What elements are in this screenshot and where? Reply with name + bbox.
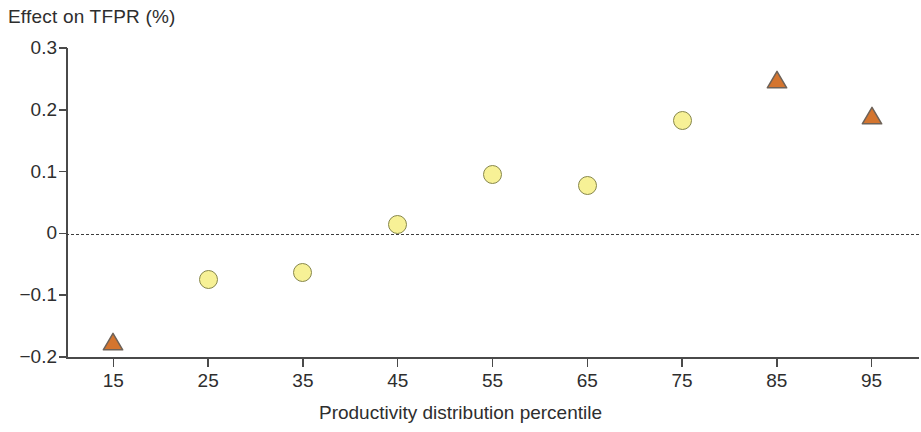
y-axis-tick-mark (59, 109, 67, 111)
y-axis-line (66, 48, 68, 359)
data-point-circle (483, 165, 502, 184)
data-point-circle (199, 270, 218, 289)
y-axis-tick-label: 0.2 (1, 100, 57, 119)
x-axis-tick-label: 95 (842, 370, 902, 391)
x-axis-tick-label: 35 (273, 370, 333, 391)
y-axis-tick-label: 0.1 (1, 162, 57, 181)
x-axis-tick-label: 55 (463, 370, 523, 391)
x-axis-tick-mark (302, 358, 304, 367)
x-axis-tick-label: 85 (747, 370, 807, 391)
data-point-circle (293, 263, 312, 282)
x-axis-tick-mark (681, 358, 683, 367)
y-axis-tick-mark (59, 294, 67, 296)
y-axis-tick: 0 (0, 223, 57, 242)
plot-area: 0.30.20.10−0.1−0.2 152535455565758595 (0, 0, 921, 432)
zero-reference-line (66, 234, 919, 235)
data-point-triangle (102, 332, 124, 351)
data-point-triangle (766, 70, 788, 89)
y-axis-tick: 0.1 (0, 162, 57, 181)
y-axis-tick-label: −0.1 (1, 285, 57, 304)
x-axis-tick-label: 75 (652, 370, 712, 391)
y-axis-tick-mark (59, 171, 67, 173)
x-axis-tick-mark (587, 358, 589, 367)
x-axis-tick-mark (397, 358, 399, 367)
data-point-circle (578, 176, 597, 195)
x-axis-tick-mark (207, 358, 209, 367)
y-axis-tick-mark (59, 356, 67, 358)
scatter-chart-figure: Effect on TFPR (%) 0.30.20.10−0.1−0.2 15… (0, 0, 921, 432)
x-axis-label: Productivity distribution percentile (0, 402, 921, 424)
x-axis-tick-label: 45 (368, 370, 428, 391)
x-axis-tick-label: 25 (178, 370, 238, 391)
x-axis-tick-label: 65 (557, 370, 617, 391)
y-axis-tick-label: 0.3 (1, 38, 57, 57)
y-axis-tick-mark (59, 47, 67, 49)
x-axis-tick-mark (776, 358, 778, 367)
x-axis-tick-label: 15 (83, 370, 143, 391)
y-axis-tick: −0.1 (0, 285, 57, 304)
data-point-triangle (861, 106, 883, 125)
data-point-circle (388, 215, 407, 234)
y-axis-tick: 0.3 (0, 38, 57, 57)
y-axis-tick-label: −0.2 (1, 347, 57, 366)
x-axis-tick-mark (871, 358, 873, 367)
y-axis-tick: −0.2 (0, 347, 57, 366)
y-axis-tick: 0.2 (0, 100, 57, 119)
x-axis-tick-mark (113, 358, 115, 367)
data-point-circle (673, 111, 692, 130)
y-axis-tick-label: 0 (1, 223, 57, 242)
x-axis-tick-mark (492, 358, 494, 367)
